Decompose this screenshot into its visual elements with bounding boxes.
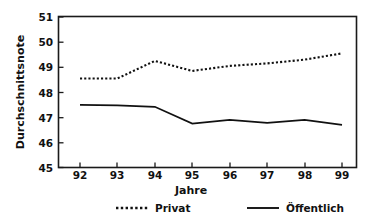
y-axis-title: Durchschnittsnote <box>14 35 27 149</box>
x-tick-label: 92 <box>73 169 88 181</box>
y-tick-label: 47 <box>38 112 53 124</box>
y-tick-label: 48 <box>38 87 53 99</box>
x-tick-label: 99 <box>335 169 350 181</box>
x-axis-title: Jahre <box>174 184 207 197</box>
y-tick-label: 50 <box>38 36 53 48</box>
x-tick-label: 95 <box>185 169 200 181</box>
x-tick-label: 98 <box>298 169 313 181</box>
y-axis-tick-labels: 51 50 49 48 47 46 45 <box>38 11 53 174</box>
y-tick-label: 51 <box>38 11 53 23</box>
line-chart: 51 50 49 48 47 46 45 92 93 94 95 96 97 <box>0 0 374 218</box>
chart-legend: Privat Öffentlich <box>116 201 344 214</box>
x-tick-label: 96 <box>223 169 238 181</box>
x-tick-label: 97 <box>260 169 275 181</box>
y-tick-label: 49 <box>38 61 53 73</box>
x-tick-label: 93 <box>110 169 125 181</box>
chart-container: 51 50 49 48 47 46 45 92 93 94 95 96 97 <box>0 0 374 218</box>
legend-label-privat: Privat <box>155 202 190 214</box>
legend-label-oeffentlich: Öffentlich <box>286 201 344 214</box>
x-axis-tick-labels: 92 93 94 95 96 97 98 99 <box>73 169 350 181</box>
series-line-privat <box>80 53 342 78</box>
plot-frame <box>59 17 357 168</box>
series-line-oeffentlich <box>80 105 342 125</box>
y-tick-label: 45 <box>38 162 53 174</box>
x-tick-label: 94 <box>148 169 163 181</box>
y-tick-label: 46 <box>38 137 53 149</box>
series-group <box>80 53 342 124</box>
